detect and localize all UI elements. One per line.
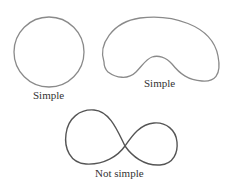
figure-eight-curve	[66, 110, 178, 165]
simple-circle-curve	[14, 17, 84, 87]
simple-kidney-curve	[103, 17, 219, 81]
kidney-label: Simple	[144, 78, 175, 89]
figure-eight-label: Not simple	[95, 168, 144, 179]
circle-label: Simple	[33, 90, 64, 101]
